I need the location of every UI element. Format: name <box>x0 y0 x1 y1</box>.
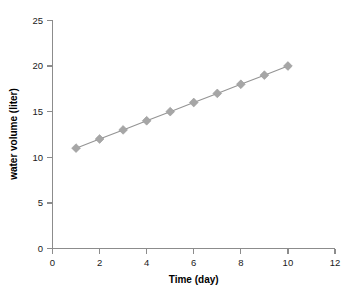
y-tick-label-25: 25 <box>32 15 43 26</box>
x-tick-label-12: 12 <box>330 257 341 268</box>
x-tick-label-8: 8 <box>238 257 243 268</box>
data-point-marker <box>95 135 104 144</box>
axes-group <box>53 20 336 249</box>
y-tick-label-10: 10 <box>32 152 43 163</box>
data-point-marker <box>166 107 175 116</box>
data-point-marker <box>236 80 245 89</box>
data-point-marker <box>119 125 128 134</box>
x-axis-tick-labels: 0 2 4 6 8 10 12 <box>50 257 340 268</box>
x-axis-title: Time (day) <box>169 274 219 285</box>
x-tick-label-0: 0 <box>50 257 55 268</box>
series-water-volume <box>72 62 293 153</box>
x-axis-ticks <box>53 249 336 255</box>
data-point-marker <box>284 62 293 71</box>
chart-container: 0 5 10 15 20 25 0 2 4 6 8 10 12 <box>0 0 358 296</box>
data-point-marker <box>189 98 198 107</box>
x-tick-label-6: 6 <box>191 257 196 268</box>
y-axis-tick-labels: 0 5 10 15 20 25 <box>32 15 43 254</box>
series-line <box>76 66 288 148</box>
y-tick-label-15: 15 <box>32 106 43 117</box>
data-point-marker <box>213 89 222 98</box>
data-point-marker <box>142 116 151 125</box>
line-chart: 0 5 10 15 20 25 0 2 4 6 8 10 12 <box>0 0 358 296</box>
y-tick-label-20: 20 <box>32 60 43 71</box>
y-axis-title: water volume (liter) <box>8 88 19 181</box>
y-tick-label-0: 0 <box>38 243 43 254</box>
y-axis-ticks <box>47 20 53 248</box>
x-tick-label-10: 10 <box>283 257 294 268</box>
data-point-marker <box>260 71 269 80</box>
data-point-marker <box>72 144 81 153</box>
x-tick-label-4: 4 <box>144 257 149 268</box>
x-tick-label-2: 2 <box>97 257 102 268</box>
y-tick-label-5: 5 <box>38 197 43 208</box>
